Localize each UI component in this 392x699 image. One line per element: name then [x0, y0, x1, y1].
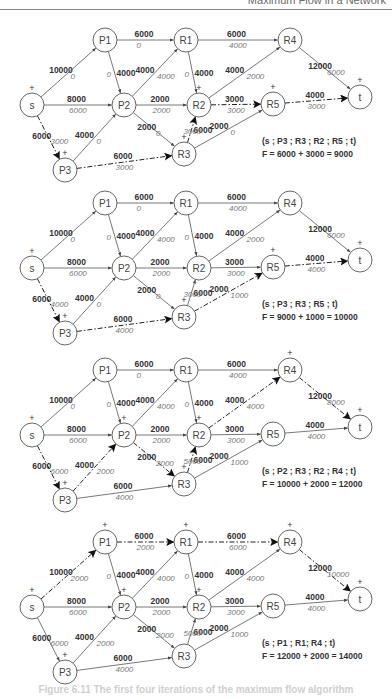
capacity-label: 4000 — [225, 567, 244, 577]
node-p1: P1 — [93, 191, 117, 215]
flow-label: 6000 — [327, 231, 345, 240]
capacity-label: 4000 — [75, 293, 94, 303]
label-mark-plus: + — [62, 478, 67, 488]
flow-label: 6000 — [69, 106, 87, 115]
node-label: R5 — [267, 262, 280, 273]
flow-label: 3000 — [227, 608, 245, 617]
flow-label: 3000 — [51, 137, 69, 146]
capacity-label: 6000 — [227, 531, 246, 541]
flow-label: 4000 — [229, 371, 247, 380]
label-mark-plus: + — [121, 413, 126, 423]
label-mark-plus: + — [357, 577, 362, 587]
node-label: t — [359, 594, 362, 605]
label-mark-plus: + — [357, 405, 362, 415]
node-label: R2 — [193, 430, 206, 441]
capacity-label: 6000 — [32, 633, 51, 643]
flow-network-diagram: 1000008000600060003000600004000040004000… — [0, 0, 392, 699]
flow-label: 0 — [97, 300, 102, 309]
node-label: R4 — [284, 198, 297, 209]
node-s: s+ — [20, 246, 44, 280]
capacity-label: 4000 — [117, 398, 136, 408]
node-r4: R4+ — [278, 520, 302, 554]
node-label: R1 — [180, 35, 193, 46]
label-mark-plus: + — [102, 520, 107, 530]
capacity-label: 2000 — [151, 94, 170, 104]
flow-label: 3000 — [227, 436, 245, 445]
capacity-label: 4000 — [75, 632, 94, 642]
flow-label: 4000 — [51, 300, 69, 309]
capacity-label: 4000 — [306, 420, 325, 430]
node-label: R2 — [193, 602, 206, 613]
node-label: R2 — [193, 263, 206, 274]
flow-label: 2000 — [152, 436, 171, 445]
edge-r2-r4 — [209, 47, 280, 98]
flow-label: 0 — [137, 41, 142, 50]
flow-label: 0 — [71, 72, 76, 81]
capacity-label: 4000 — [117, 231, 136, 241]
flow-label: 4000 — [247, 574, 265, 583]
flow-label: 0 — [107, 572, 112, 581]
capacity-label: 6000 — [135, 192, 154, 202]
capacity-label: 4000 — [136, 395, 155, 405]
iteration-graph-1: 1000008000600060003000600004000040004000… — [20, 28, 372, 182]
iteration-graph-4: 1000020008000600060006000600020004000040… — [20, 520, 372, 684]
capacity-label: 4000 — [136, 65, 155, 75]
flow-label: 4000 — [229, 41, 247, 50]
flow-label: 2000 — [136, 543, 155, 552]
capacity-label: 2000 — [137, 624, 156, 634]
flow-label: 0 — [71, 235, 76, 244]
node-r2: R2 — [187, 256, 211, 280]
label-mark-plus: + — [270, 245, 275, 255]
node-p2: P2+ — [112, 413, 136, 447]
flow-label: 0 — [137, 371, 142, 380]
capacity-label: 4000 — [195, 68, 214, 78]
node-label: R1 — [180, 365, 193, 376]
capacity-label: 4000 — [195, 398, 214, 408]
edge-r2-r4 — [209, 549, 280, 600]
label-mark-plus: + — [183, 520, 188, 530]
capacity-label: 4000 — [195, 570, 214, 580]
flow-label: 2000 — [96, 639, 115, 648]
label-mark-plus: + — [270, 82, 275, 92]
capacity-label: 6000 — [227, 359, 246, 369]
node-label: P1 — [99, 537, 112, 548]
capacity-label: 4000 — [306, 592, 325, 602]
label-mark-plus: + — [29, 585, 34, 595]
flow-label: 2000 — [152, 608, 171, 617]
node-t: t+ — [348, 238, 372, 272]
iteration-graph-3: 1000008000600060006000600004000040004000… — [20, 348, 372, 512]
node-label: s — [30, 100, 35, 111]
flow-label: 0 — [185, 233, 190, 242]
node-p2: P2 — [112, 93, 136, 117]
capacity-label: 6000 — [32, 461, 51, 471]
node-label: R4 — [284, 537, 297, 548]
label-mark-plus: + — [196, 585, 201, 595]
flow-label: 4000 — [308, 265, 326, 274]
flow-label: 6000 — [327, 68, 345, 77]
flow-label: 0 — [137, 204, 142, 213]
node-label: P3 — [59, 328, 72, 339]
flow-label: 2000 — [152, 106, 171, 115]
label-mark-plus: + — [62, 650, 67, 660]
flow-label: 0 — [156, 129, 161, 138]
flow-label: 0 — [107, 70, 112, 79]
label-mark-plus: + — [29, 246, 34, 256]
label-mark-plus: + — [62, 311, 67, 321]
node-t: t+ — [348, 75, 372, 109]
label-mark-plus: + — [287, 520, 292, 530]
capacity-label: 2000 — [151, 424, 170, 434]
flow-label: 0 — [185, 572, 190, 581]
flow-label: 2000 — [70, 574, 89, 583]
node-label: R1 — [180, 537, 193, 548]
capacity-label: 2000 — [210, 284, 229, 294]
node-label: R1 — [180, 198, 193, 209]
edge-r2-r4 — [209, 377, 280, 428]
capacity-label: 6000 — [135, 359, 154, 369]
node-r3: R3 — [172, 644, 196, 668]
node-r1: R1 — [174, 191, 198, 215]
node-label: P2 — [118, 602, 131, 613]
flow-label: 4000 — [157, 574, 175, 583]
capacity-label: 2000 — [210, 451, 229, 461]
capacity-label: 6000 — [114, 653, 133, 663]
label-mark-plus: + — [357, 75, 362, 85]
